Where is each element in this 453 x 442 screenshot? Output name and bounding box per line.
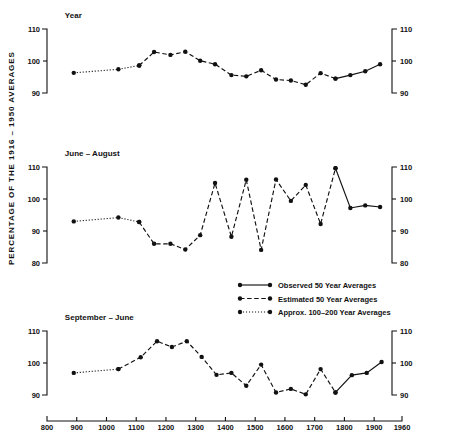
right-axis-tick-label: 90 xyxy=(400,227,408,236)
data-point xyxy=(274,77,278,81)
right-axis-tick-label: 80 xyxy=(400,259,408,268)
data-point xyxy=(170,345,174,349)
x-axis-tick-label: 1800 xyxy=(336,423,353,432)
data-point xyxy=(244,74,248,78)
data-point xyxy=(137,63,141,67)
left-axis-tick-label: 80 xyxy=(32,259,40,268)
data-point xyxy=(72,71,76,75)
data-point xyxy=(304,82,308,86)
data-point xyxy=(138,355,142,359)
data-point xyxy=(259,68,263,72)
data-point xyxy=(168,242,172,246)
x-axis-tick-label: 1600 xyxy=(277,423,294,432)
left-axis-tick-label: 100 xyxy=(27,57,40,66)
data-point xyxy=(289,387,293,391)
right-axis-tick-label: 90 xyxy=(400,89,408,98)
left-axis-tick-label: 110 xyxy=(28,163,40,172)
climate-figure: PERCENTAGE OF THE 1916 – 1950 AVERAGES Y… xyxy=(0,0,453,442)
legend-label: Approx. 100–200 Year Averages xyxy=(278,308,391,317)
legend-sample-marker xyxy=(268,296,272,300)
data-point xyxy=(348,73,352,77)
data-point xyxy=(304,392,308,396)
x-axis-tick-label: 1300 xyxy=(187,423,204,432)
data-point xyxy=(229,73,233,77)
data-point xyxy=(244,178,248,182)
data-point xyxy=(318,222,322,226)
data-point xyxy=(214,373,218,377)
data-point xyxy=(152,242,156,246)
right-axis-tick-label: 90 xyxy=(400,391,408,400)
data-point xyxy=(348,206,352,210)
data-point xyxy=(213,62,217,66)
legend-sample-marker xyxy=(238,283,242,287)
data-point xyxy=(365,371,369,375)
right-axis-tick-label: 110 xyxy=(400,163,412,172)
data-point xyxy=(116,67,120,71)
right-axis-tick-label: 100 xyxy=(400,359,413,368)
figure-svg: PERCENTAGE OF THE 1916 – 1950 AVERAGES Y… xyxy=(0,0,453,442)
data-point xyxy=(116,215,120,219)
x-axis-tick-label: 1100 xyxy=(128,423,144,432)
legend-label: Estimated 50 Year Averages xyxy=(278,295,377,304)
data-point xyxy=(274,390,278,394)
data-point xyxy=(363,69,367,73)
data-point xyxy=(274,177,278,181)
left-axis-tick-label: 90 xyxy=(32,227,40,236)
legend-sample-marker xyxy=(238,310,242,314)
y-axis-label: PERCENTAGE OF THE 1916 – 1950 AVERAGES xyxy=(7,51,16,265)
data-point xyxy=(289,199,293,203)
panel-title: June – August xyxy=(65,149,120,158)
x-axis-tick-label: 1960 xyxy=(394,423,411,432)
data-point xyxy=(333,166,337,170)
data-point xyxy=(318,367,322,371)
data-point xyxy=(137,220,141,224)
data-point xyxy=(155,339,159,343)
legend-sample-marker xyxy=(238,296,242,300)
data-point xyxy=(333,390,337,394)
data-point xyxy=(185,339,189,343)
panel-title: September – June xyxy=(65,313,134,322)
x-axis-tick-label: 1900 xyxy=(366,423,383,432)
data-point xyxy=(198,58,202,62)
data-point xyxy=(116,367,120,371)
x-axis-tick-label: 1000 xyxy=(98,423,115,432)
data-point xyxy=(244,384,248,388)
data-point xyxy=(350,373,354,377)
data-point xyxy=(229,371,233,375)
data-point xyxy=(198,233,202,237)
left-axis-tick-label: 90 xyxy=(32,89,40,98)
panel-title: Year xyxy=(65,11,82,20)
data-point xyxy=(259,248,263,252)
right-axis-tick-label: 110 xyxy=(400,327,412,336)
data-point xyxy=(378,62,382,66)
x-axis-tick-label: 1500 xyxy=(247,423,264,432)
data-point xyxy=(183,50,187,54)
left-axis-tick-label: 90 xyxy=(32,391,40,400)
data-point xyxy=(229,235,233,239)
x-axis-tick-label: 1400 xyxy=(217,423,234,432)
left-axis-tick-label: 110 xyxy=(28,327,40,336)
data-point xyxy=(213,181,217,185)
data-point xyxy=(378,205,382,209)
data-point xyxy=(199,355,203,359)
data-point xyxy=(168,53,172,57)
data-point xyxy=(304,183,308,187)
data-point xyxy=(72,219,76,223)
right-axis-tick-label: 100 xyxy=(400,57,413,66)
legend-label: Observed 50 Year Averages xyxy=(278,281,376,290)
left-axis-tick-label: 100 xyxy=(27,359,40,368)
data-point xyxy=(363,203,367,207)
data-point xyxy=(379,360,383,364)
left-axis-tick-label: 100 xyxy=(27,195,40,204)
right-axis-tick-label: 100 xyxy=(400,195,413,204)
left-axis-tick-label: 110 xyxy=(28,25,40,34)
right-axis-tick-label: 110 xyxy=(400,25,412,34)
data-point xyxy=(72,371,76,375)
legend-sample-marker xyxy=(268,310,272,314)
data-point xyxy=(183,247,187,251)
x-axis-tick-label: 1200 xyxy=(158,423,175,432)
data-point xyxy=(152,50,156,54)
x-axis-tick-label: 900 xyxy=(70,423,83,432)
legend-sample-marker xyxy=(268,283,272,287)
data-point xyxy=(289,78,293,82)
